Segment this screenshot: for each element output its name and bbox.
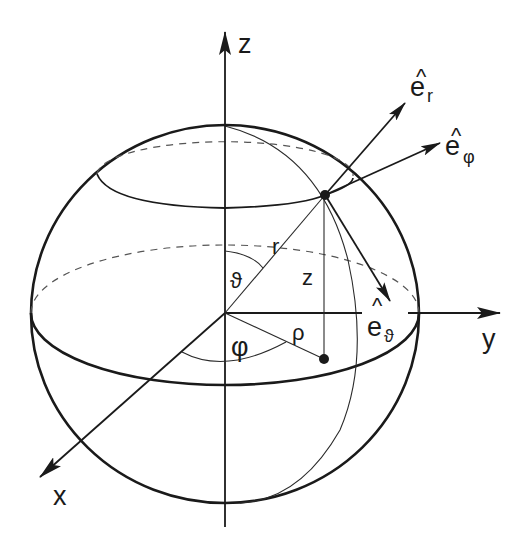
svg-text:r: r [427, 86, 433, 106]
radius-label: r [272, 234, 279, 259]
rho-label: ρ [292, 320, 305, 345]
e-r-vector [325, 103, 405, 195]
e-phi-vector [325, 143, 440, 195]
e-theta-vector [327, 198, 390, 301]
theta-label: ϑ [230, 268, 242, 293]
phi-label: φ [231, 332, 249, 362]
svg-text:φ: φ [463, 147, 475, 167]
theta-arc [225, 251, 263, 268]
height-label: z [302, 265, 313, 290]
y-axis-label: y [482, 324, 496, 354]
meridian [225, 126, 357, 503]
e-phi-label: ^ e φ [445, 123, 475, 167]
svg-text:e: e [410, 72, 425, 102]
svg-text:e: e [445, 131, 460, 161]
svg-text:ϑ: ϑ [384, 326, 394, 346]
latitude-circle-front [97, 174, 325, 208]
point-projection [319, 354, 329, 364]
spherical-coordinates-diagram: z y x r z ρ ϑ φ ^ e r ^ e φ ^ e ϑ [0, 0, 526, 552]
z-axis-label: z [238, 29, 252, 59]
svg-text:e: e [367, 312, 382, 342]
x-axis-label: x [53, 481, 67, 511]
e-r-label: ^ e r [410, 64, 433, 106]
x-axis [40, 313, 225, 477]
